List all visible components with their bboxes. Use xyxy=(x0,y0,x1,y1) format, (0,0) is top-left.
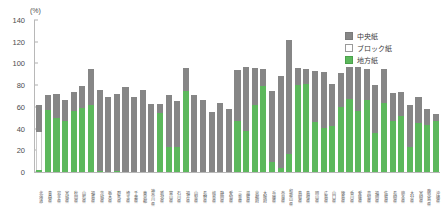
bar-segment-local-paper xyxy=(364,100,370,172)
bar-10[interactable] xyxy=(122,87,128,172)
bar-segment-central-paper xyxy=(217,103,223,172)
legend-item-block: ブロック紙 xyxy=(345,42,437,53)
bar-segment-central-paper xyxy=(226,109,232,172)
y-tick-label: 100 xyxy=(12,59,25,68)
x-axis-label-29: 和歌山県 xyxy=(286,174,292,220)
bar-11[interactable] xyxy=(131,97,137,172)
bar-35[interactable] xyxy=(338,73,344,172)
bar-41[interactable] xyxy=(390,93,396,172)
newspaper-diffusion-chart: (%) 020406080100120140 北海道青森県岩手県宮城県秋田県山形… xyxy=(0,0,442,224)
bar-segment-local-paper xyxy=(260,86,266,172)
x-axis-label-27: 兵庫県 xyxy=(269,174,275,220)
x-axis-label-23: 三重県 xyxy=(234,174,240,220)
bar-segment-local-paper xyxy=(53,118,59,172)
bar-segment-central-paper xyxy=(407,105,413,147)
bar-3[interactable] xyxy=(62,100,68,172)
bar-segment-local-paper xyxy=(303,84,309,172)
bar-43[interactable] xyxy=(407,105,413,172)
bar-8[interactable] xyxy=(105,97,111,172)
bar-17[interactable] xyxy=(183,68,189,172)
bar-30[interactable] xyxy=(295,68,301,172)
bar-segment-local-paper xyxy=(372,133,378,172)
x-axis-label-26: 大阪府 xyxy=(260,174,266,220)
bar-segment-central-paper xyxy=(209,112,215,172)
bar-25[interactable] xyxy=(252,68,258,172)
bar-segment-local-paper xyxy=(114,171,120,172)
bar-segment-central-paper xyxy=(131,97,137,172)
bar-27[interactable] xyxy=(269,91,275,172)
bar-21[interactable] xyxy=(217,103,223,172)
bar-42[interactable] xyxy=(398,92,404,172)
bar-37[interactable] xyxy=(355,67,361,172)
legend-item-local: 地方紙 xyxy=(345,54,437,65)
bar-38[interactable] xyxy=(364,69,370,172)
bar-39[interactable] xyxy=(372,85,378,172)
bar-segment-central-paper xyxy=(243,67,249,131)
x-axis-labels: 北海道青森県岩手県宮城県秋田県山形県福島県茨城県栃木県群馬県埼玉県千葉県東京都神… xyxy=(35,174,440,224)
x-axis-label-16: 石川県 xyxy=(174,174,180,220)
bar-29[interactable] xyxy=(286,40,292,172)
legend-swatch-local-icon xyxy=(345,56,353,64)
bar-segment-local-paper xyxy=(355,111,361,172)
bar-segment-central-paper xyxy=(329,84,335,126)
x-axis-label-7: 茨城県 xyxy=(97,174,103,220)
bar-segment-central-paper xyxy=(381,69,387,103)
bar-12[interactable] xyxy=(140,90,146,173)
bar-19[interactable] xyxy=(200,100,206,172)
bar-45[interactable] xyxy=(424,109,430,172)
bar-segment-central-paper xyxy=(346,67,352,100)
x-axis-label-0: 北海道 xyxy=(36,174,42,220)
x-axis-label-24: 滋賀県 xyxy=(243,174,249,220)
y-tick-label: 40 xyxy=(17,124,25,133)
bar-segment-central-paper xyxy=(79,86,85,108)
bar-32[interactable] xyxy=(312,71,318,172)
x-axis-label-22: 愛知県 xyxy=(226,174,232,220)
bar-40[interactable] xyxy=(381,69,387,172)
x-axis-label-43: 大分県 xyxy=(407,174,413,220)
bar-segment-local-paper xyxy=(79,108,85,172)
bar-segment-local-paper xyxy=(243,131,249,172)
bar-segment-local-paper xyxy=(415,123,421,172)
x-axis-label-41: 長崎県 xyxy=(390,174,396,220)
bar-segment-central-paper xyxy=(97,90,103,171)
bar-segment-local-paper xyxy=(166,147,172,172)
bar-31[interactable] xyxy=(303,69,309,172)
bar-15[interactable] xyxy=(166,95,172,172)
bar-13[interactable] xyxy=(148,104,154,172)
bar-4[interactable] xyxy=(71,92,77,172)
bar-segment-central-paper xyxy=(372,85,378,133)
bar-33[interactable] xyxy=(321,72,327,172)
bar-34[interactable] xyxy=(329,84,335,172)
bar-2[interactable] xyxy=(53,94,59,172)
y-tick-label: 0 xyxy=(21,168,25,177)
bar-44[interactable] xyxy=(415,97,421,172)
x-axis-label-4: 秋田県 xyxy=(71,174,77,220)
bar-36[interactable] xyxy=(346,67,352,172)
bar-24[interactable] xyxy=(243,67,249,172)
bar-segment-central-paper xyxy=(114,94,120,171)
bar-28[interactable] xyxy=(278,76,284,172)
legend-label-block: ブロック紙 xyxy=(357,43,392,53)
bar-46[interactable] xyxy=(433,114,439,172)
bar-14[interactable] xyxy=(157,104,163,172)
bar-23[interactable] xyxy=(234,70,240,172)
bar-18[interactable] xyxy=(191,95,197,172)
x-axis-label-8: 栃木県 xyxy=(105,174,111,220)
bar-1[interactable] xyxy=(45,95,51,172)
x-axis-label-20: 岐阜県 xyxy=(209,174,215,220)
bar-0[interactable] xyxy=(36,105,42,172)
bar-segment-central-paper xyxy=(234,70,240,121)
x-axis-label-17: 福井県 xyxy=(183,174,189,220)
bar-6[interactable] xyxy=(88,69,94,172)
bar-segment-local-paper xyxy=(424,125,430,172)
bar-26[interactable] xyxy=(260,69,266,172)
bar-segment-local-paper xyxy=(338,107,344,172)
bar-9[interactable] xyxy=(114,94,120,172)
bar-7[interactable] xyxy=(97,90,103,173)
x-axis-label-39: 福岡県 xyxy=(372,174,378,220)
bar-16[interactable] xyxy=(174,101,180,172)
bar-20[interactable] xyxy=(209,112,215,172)
bar-22[interactable] xyxy=(226,109,232,172)
bar-5[interactable] xyxy=(79,86,85,172)
bar-segment-central-paper xyxy=(355,67,361,112)
